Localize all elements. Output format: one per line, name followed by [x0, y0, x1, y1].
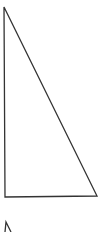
diagram-canvas: [0, 0, 110, 232]
right-triangle: [4, 7, 97, 197]
partial-glyph: [5, 222, 11, 232]
